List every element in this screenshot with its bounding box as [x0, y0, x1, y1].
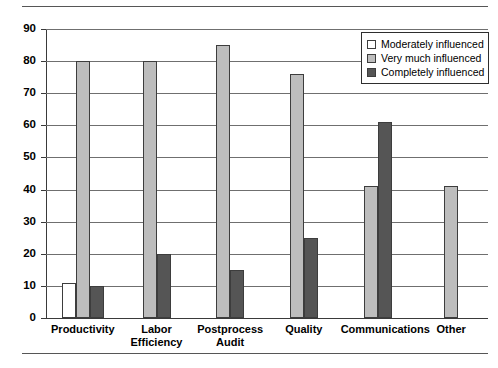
gridline	[46, 157, 488, 158]
bar	[304, 238, 318, 318]
x-axis-category-label: Quality	[267, 323, 341, 336]
y-axis-tick-label: 0	[0, 312, 36, 324]
y-axis-tick-label: 40	[0, 184, 36, 196]
gridline	[46, 29, 488, 30]
gridline	[46, 254, 488, 255]
bar	[444, 186, 458, 318]
chart-legend: Moderately influenced Very much influenc…	[361, 32, 489, 84]
legend-label: Very much influenced	[381, 52, 481, 64]
bar	[157, 254, 171, 318]
y-axis-tick	[41, 61, 46, 62]
y-axis-tick-label: 90	[0, 23, 36, 35]
y-axis-tick-label: 70	[0, 87, 36, 99]
gridline	[46, 286, 488, 287]
legend-swatch-completely-influenced	[367, 68, 376, 77]
legend-swatch-moderately-influenced	[367, 40, 376, 49]
gridline	[46, 190, 488, 191]
bottom-divider-rule	[22, 353, 488, 354]
bar	[90, 286, 104, 318]
y-axis-line	[46, 29, 47, 318]
y-axis-tick	[41, 254, 46, 255]
y-axis-tick	[41, 318, 46, 319]
y-axis-tick	[41, 222, 46, 223]
legend-item: Very much influenced	[367, 51, 483, 65]
legend-item: Moderately influenced	[367, 37, 483, 51]
y-axis-tick-label: 20	[0, 248, 36, 260]
x-axis-category-label: Postprocess Audit	[193, 323, 267, 349]
bar	[378, 122, 392, 318]
gridline	[46, 93, 488, 94]
legend-item: Completely influenced	[367, 65, 483, 79]
y-axis-tick	[41, 157, 46, 158]
y-axis-tick	[41, 190, 46, 191]
y-axis-tick-label: 50	[0, 151, 36, 163]
bar	[76, 61, 90, 318]
bar	[62, 283, 76, 318]
x-axis-category-label: Other	[414, 323, 488, 336]
legend-swatch-very-much-influenced	[367, 54, 376, 63]
y-axis-tick	[41, 93, 46, 94]
bar	[364, 186, 378, 318]
x-axis-line	[46, 318, 488, 319]
x-axis-category-label: Productivity	[46, 323, 120, 336]
bar	[230, 270, 244, 318]
y-axis-tick-label: 60	[0, 119, 36, 131]
y-axis-tick-label: 80	[0, 55, 36, 67]
gridline	[46, 222, 488, 223]
y-axis-tick	[41, 125, 46, 126]
y-axis-tick	[41, 29, 46, 30]
legend-label: Completely influenced	[381, 66, 484, 78]
top-divider-rule	[22, 6, 488, 7]
bar-chart-figure: 0102030405060708090 ProductivityLabor Ef…	[0, 0, 498, 368]
bar	[290, 74, 304, 318]
y-axis-tick-label: 10	[0, 280, 36, 292]
gridline	[46, 125, 488, 126]
x-axis-category-label: Communications	[341, 323, 415, 336]
y-axis-tick	[41, 286, 46, 287]
bar	[216, 45, 230, 318]
bar	[143, 61, 157, 318]
y-axis-tick-label: 30	[0, 216, 36, 228]
x-axis-category-label: Labor Efficiency	[120, 323, 194, 349]
legend-label: Moderately influenced	[381, 38, 484, 50]
